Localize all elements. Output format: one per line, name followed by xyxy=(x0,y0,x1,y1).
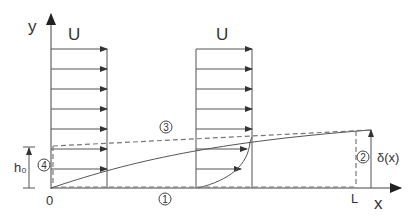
origin-label: 0 xyxy=(46,193,53,208)
length-label: L xyxy=(351,191,358,206)
h0-label: h₀ xyxy=(14,160,27,175)
boundary-layer-diagram: y x 0 L U U δ(x) xyxy=(0,0,417,216)
boundary-layer-velocity-profile xyxy=(196,49,252,188)
uniform-velocity-profile xyxy=(51,49,107,188)
profile-2-label: U xyxy=(216,25,228,44)
profile-1-label: U xyxy=(68,25,80,44)
delta-label: δ(x) xyxy=(377,150,399,165)
region-marker-4: 4 xyxy=(38,159,50,171)
y-axis-label: y xyxy=(28,17,37,36)
svg-text:1: 1 xyxy=(162,194,168,205)
svg-text:3: 3 xyxy=(163,122,169,133)
x-axis-label: x xyxy=(374,194,383,213)
region-marker-2: 2 xyxy=(357,151,369,163)
boundary-layer-edge-curve xyxy=(51,130,371,188)
svg-text:2: 2 xyxy=(360,152,366,163)
svg-text:4: 4 xyxy=(41,160,47,171)
control-volume xyxy=(53,130,371,187)
region-marker-1: 1 xyxy=(159,193,171,205)
region-marker-3: 3 xyxy=(160,121,172,133)
